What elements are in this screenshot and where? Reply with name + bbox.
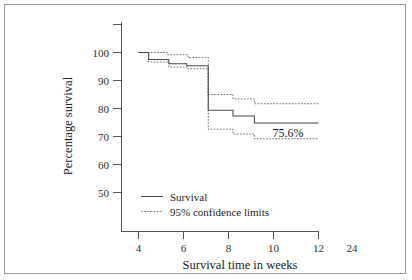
y-axis-title: Percentage survival [61, 76, 75, 175]
y-tick-label-90: 90 [98, 75, 110, 87]
legend-label-confidence-limits: 95% confidence limits [170, 206, 269, 218]
legend-label-survival: Survival [170, 191, 207, 203]
y-axis-tick-labels: 100 90 80 70 60 50 [93, 47, 110, 199]
x-axis-title: Survival time in weeks [183, 258, 298, 272]
chart-legend: Survival 95% confidence limits [141, 191, 269, 218]
x-tick-label-6: 6 [181, 242, 187, 254]
y-tick-label-80: 80 [98, 103, 110, 115]
survival-curve [139, 53, 319, 124]
survival-chart: 100 90 80 70 60 50 4 6 8 10 12 24 Surviv… [0, 0, 412, 280]
y-axis-ticks [113, 25, 122, 193]
y-tick-label-70: 70 [98, 131, 110, 143]
upper-confidence-limit-curve [139, 53, 319, 104]
x-tick-label-24: 24 [347, 242, 359, 254]
x-tick-label-12: 12 [313, 242, 324, 254]
survival-percentage-annotation: 75.6% [273, 126, 304, 140]
x-tick-label-10: 10 [268, 242, 280, 254]
x-axis-tick-labels: 4 6 8 10 12 24 [136, 242, 358, 254]
x-tick-label-4: 4 [136, 242, 142, 254]
y-tick-label-100: 100 [93, 47, 110, 59]
x-axis-ticks [139, 232, 319, 240]
y-tick-label-60: 60 [98, 159, 110, 171]
chart-canvas: 100 90 80 70 60 50 4 6 8 10 12 24 Surviv… [0, 0, 412, 280]
y-tick-label-50: 50 [98, 187, 110, 199]
x-tick-label-8: 8 [226, 242, 232, 254]
